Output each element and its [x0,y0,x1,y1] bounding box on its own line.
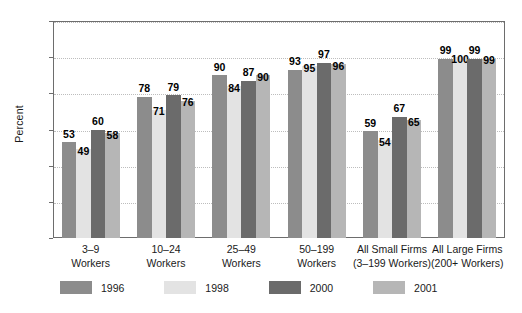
bar [302,66,317,238]
bar [482,59,497,238]
x-category-line: Workers [297,257,336,271]
bar [453,57,468,238]
bar [363,131,378,238]
bar-value-label: 87 [243,66,255,78]
bar-value-label: 84 [228,82,240,94]
bar [62,142,77,238]
x-category-line: Workers [147,257,186,271]
bar-value-label: 95 [304,62,316,74]
bar [212,75,227,238]
x-category-line: 50–199 [297,243,336,257]
x-category-line: Workers [222,257,261,271]
bar [288,70,303,238]
bar [105,133,120,238]
bar-value-label: 60 [92,115,104,127]
bar-value-label: 78 [138,82,150,94]
bar [166,95,181,238]
bar [152,110,167,238]
bars-layer: 5349605878717976908487909395979659546765… [53,21,505,238]
bar-value-label: 67 [393,102,405,114]
x-category-label: 25–49Workers [222,243,261,270]
bar [467,59,482,238]
y-axis-title: Percent [13,79,25,169]
y-tick-mark [49,238,53,239]
x-category-label: All Large Firms(200+ Workers) [431,243,503,270]
legend-label: 1998 [205,282,228,294]
x-category-line: 25–49 [222,243,261,257]
bar [331,64,346,238]
bar [378,140,393,238]
x-axis-labels: 3–9Workers10–24Workers25–49Workers50–199… [53,243,505,275]
bar [407,120,422,238]
bar [317,63,332,238]
x-category-line: Workers [71,257,110,271]
legend-swatch [269,281,301,294]
bar-value-label: 93 [289,55,301,67]
bar-value-label: 76 [182,96,194,108]
legend-item[interactable]: 2000 [269,281,373,294]
bar [91,130,106,239]
bar-value-label: 100 [451,53,469,65]
legend-label: 1996 [101,282,124,294]
x-category-line: All Small Firms [353,243,431,257]
bar [392,117,407,238]
x-category-line: (200+ Workers) [431,257,503,271]
bar [227,86,242,238]
bar-value-label: 65 [408,116,420,128]
bar-value-label: 71 [153,105,165,117]
bar-value-label: 96 [333,60,345,72]
legend-label: 2001 [414,282,437,294]
bar-value-label: 99 [440,44,452,56]
bar [438,59,453,238]
legend-swatch [373,281,405,294]
bar-value-label: 79 [167,81,179,93]
x-category-line: All Large Firms [431,243,503,257]
bar-value-label: 54 [379,136,391,148]
x-category-line: 3–9 [71,243,110,257]
x-category-label: 3–9Workers [71,243,110,270]
bar-value-label: 99 [483,54,495,66]
legend-label: 2000 [310,282,333,294]
bar-chart: Percent 020406080100120 5349605878717976… [0,0,522,313]
bar [76,149,91,238]
legend-item[interactable]: 1998 [164,281,268,294]
bar-value-label: 59 [364,117,376,129]
bar [181,101,196,238]
legend: 1996199820002001 [60,281,477,294]
legend-item[interactable]: 2001 [373,281,477,294]
bar-value-label: 90 [257,71,269,83]
bar [137,97,152,238]
bar-value-label: 49 [78,145,90,157]
bar-value-label: 53 [63,128,75,140]
x-category-line: 10–24 [147,243,186,257]
bar [256,75,271,238]
x-category-label: 50–199Workers [297,243,336,270]
bar-value-label: 58 [107,129,119,141]
x-category-line: (3–199 Workers) [353,257,431,271]
bar-value-label: 99 [469,44,481,56]
bar-value-label: 90 [214,61,226,73]
bar [241,81,256,238]
legend-swatch [60,281,92,294]
x-category-label: 10–24Workers [147,243,186,270]
legend-item[interactable]: 1996 [60,281,164,294]
x-category-label: All Small Firms(3–199 Workers) [353,243,431,270]
legend-swatch [164,281,196,294]
bar-value-label: 97 [318,48,330,60]
